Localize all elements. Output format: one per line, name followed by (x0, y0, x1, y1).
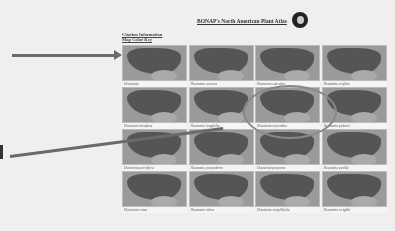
map-tile[interactable]: Houstonia caerulea (255, 45, 320, 87)
map-tile[interactable]: Houstonia (122, 45, 187, 87)
distribution-map[interactable] (189, 129, 254, 165)
distribution-map[interactable] (255, 45, 320, 81)
distribution-map[interactable] (122, 87, 187, 123)
info-links: Citation Information Map Color Key (122, 32, 162, 42)
map-tile[interactable]: Houstonia rubra (189, 171, 254, 213)
annotation-arrow-icon (12, 54, 116, 57)
distribution-map[interactable] (189, 45, 254, 81)
distribution-map[interactable] (122, 171, 187, 207)
map-label[interactable]: Houstonia rubra (189, 207, 254, 213)
highlight-circle (243, 85, 337, 139)
map-tile[interactable]: Houstonia serpyllifolia (255, 171, 320, 213)
annotation-marker (0, 145, 3, 159)
map-tile[interactable]: Houstonia humifusa (122, 87, 187, 129)
bonap-logo-icon (292, 12, 308, 28)
distribution-map[interactable] (322, 45, 387, 81)
map-tile[interactable]: Houstonia acerosa (189, 45, 254, 87)
map-label[interactable]: Houstonia wrightii (322, 207, 387, 213)
map-tile[interactable]: Houstonia croftiae (322, 45, 387, 87)
distribution-map[interactable] (322, 171, 387, 207)
map-tile[interactable]: Houstonia procumbens (189, 129, 254, 171)
distribution-map[interactable] (189, 171, 254, 207)
distribution-map[interactable] (322, 129, 387, 165)
map-tile[interactable]: Houstonia rosea (122, 171, 187, 213)
map-label[interactable]: Houstonia serpyllifolia (255, 207, 320, 213)
distribution-map[interactable] (122, 45, 187, 81)
page-title[interactable]: BONAP's North American Plant Atlas (197, 18, 287, 24)
map-label[interactable]: Houstonia rosea (122, 207, 187, 213)
map-tile[interactable]: Houstonia pusilla (322, 129, 387, 171)
distribution-map[interactable] (255, 171, 320, 207)
color-key-link[interactable]: Map Color Key (122, 37, 162, 42)
map-tile[interactable]: Houstonia wrightii (322, 171, 387, 213)
